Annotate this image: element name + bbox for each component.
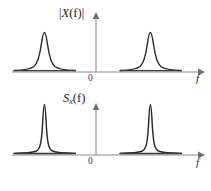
power-spectral-density-xaxis-label: f — [196, 157, 199, 168]
vertical-axis-arrowhead — [93, 103, 100, 110]
power-spectral-density-ylabel: Sx(f) — [63, 92, 85, 106]
ylabel-bar-close: | — [82, 6, 85, 20]
ylabel-argument: (f) — [69, 6, 82, 20]
curve-left-peak-bottom — [14, 105, 75, 154]
curve-right-peak-bottom — [120, 105, 181, 154]
ylabel-argument: (f) — [73, 91, 86, 105]
power-spectral-density-origin-label: 0 — [88, 157, 93, 167]
curve-left-peak-top — [14, 32, 75, 70]
power-spectral-density-plot — [0, 83, 211, 191]
magnitude-spectrum-ylabel: |X(f)| — [59, 7, 84, 20]
curve-right-peak-top — [120, 32, 181, 70]
figure-container: |X(f)| 0 f Sx(f) 0 f — [0, 0, 211, 191]
vertical-axis-arrowhead — [93, 12, 100, 19]
magnitude-spectrum-plot — [0, 0, 211, 83]
ylabel-symbol: X — [62, 6, 70, 20]
